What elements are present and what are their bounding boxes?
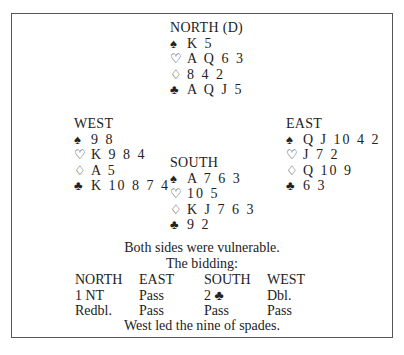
heart-icon: ♡ — [170, 186, 187, 202]
bidding-header-north: NORTH — [75, 272, 139, 288]
hand-west: WEST ♠9 8 ♡K 9 8 4 ♢A 5 ♣K 10 8 7 4 — [74, 116, 170, 194]
spade-icon: ♠ — [74, 132, 91, 148]
hand-south: SOUTH ♠A 7 6 3 ♡10 5 ♢K J 7 6 3 ♣9 2 — [170, 155, 256, 233]
diamond-icon: ♢ — [74, 163, 91, 179]
vulnerability-note: Both sides were vulnerable. — [0, 240, 404, 256]
hearts-holding: J 7 2 — [303, 147, 339, 162]
heart-icon: ♡ — [74, 147, 91, 163]
spades-holding: A 7 6 3 — [187, 171, 242, 186]
bidding-row: 1 NT Pass 2 ♣ Dbl. — [75, 288, 331, 304]
bid: Pass — [267, 303, 331, 319]
diamonds-holding: A 5 — [91, 163, 117, 178]
clubs-holding: 9 2 — [187, 217, 211, 232]
heart-icon: ♡ — [286, 147, 303, 163]
spades-holding: K 5 — [187, 36, 214, 51]
hand-title: EAST — [286, 116, 381, 132]
club-icon: ♣ — [74, 178, 91, 194]
bid: Redbl. — [75, 303, 139, 319]
bid: Pass — [139, 303, 204, 319]
bidding-table: NORTH EAST SOUTH WEST 1 NT Pass 2 ♣ Dbl.… — [75, 272, 331, 319]
bid: 1 NT — [75, 288, 139, 304]
clubs-holding: 6 3 — [303, 178, 327, 193]
bidding-row: Redbl. Pass Pass Pass — [75, 303, 331, 319]
bidding-header-east: EAST — [139, 272, 204, 288]
diamond-icon: ♢ — [170, 202, 187, 218]
club-icon: ♣ — [286, 178, 303, 194]
hearts-holding: A Q 6 3 — [187, 51, 245, 66]
bid: Pass — [139, 288, 204, 304]
spades-holding: 9 8 — [91, 132, 115, 147]
bidding-label: The bidding: — [0, 256, 404, 272]
hand-north: NORTH (D) ♠K 5 ♡A Q 6 3 ♢8 4 2 ♣A Q J 5 — [170, 20, 245, 98]
bidding-header-west: WEST — [267, 272, 331, 288]
hand-east: EAST ♠Q J 10 4 2 ♡J 7 2 ♢Q 10 9 ♣6 3 — [286, 116, 381, 194]
club-icon: ♣ — [170, 82, 187, 98]
hand-title: WEST — [74, 116, 170, 132]
hearts-holding: K 9 8 4 — [91, 147, 147, 162]
diamonds-holding: K J 7 6 3 — [187, 202, 256, 217]
bidding-header-row: NORTH EAST SOUTH WEST — [75, 272, 331, 288]
bidding-header-south: SOUTH — [204, 272, 267, 288]
diamond-icon: ♢ — [170, 67, 187, 83]
clubs-holding: A Q J 5 — [187, 82, 243, 97]
diamonds-holding: 8 4 2 — [187, 67, 225, 82]
opening-lead-note: West led the nine of spades. — [0, 318, 404, 334]
clubs-holding: K 10 8 7 4 — [91, 178, 170, 193]
heart-icon: ♡ — [170, 51, 187, 67]
diamonds-holding: Q 10 9 — [303, 163, 353, 178]
spade-icon: ♠ — [286, 132, 303, 148]
hearts-holding: 10 5 — [187, 186, 220, 201]
bid: 2 ♣ — [204, 288, 267, 304]
spade-icon: ♠ — [170, 36, 187, 52]
spade-icon: ♠ — [170, 171, 187, 187]
bid: Pass — [204, 303, 267, 319]
club-icon: ♣ — [170, 217, 187, 233]
spades-holding: Q J 10 4 2 — [303, 132, 381, 147]
diamond-icon: ♢ — [286, 163, 303, 179]
hand-title: NORTH (D) — [170, 20, 245, 36]
bid: Dbl. — [267, 288, 331, 304]
hand-title: SOUTH — [170, 155, 256, 171]
